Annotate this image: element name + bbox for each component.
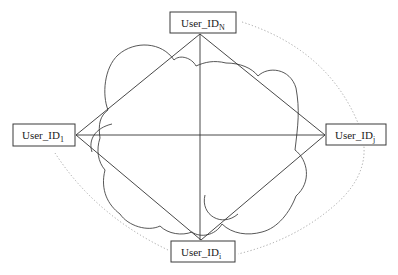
edge-top-left [76, 34, 200, 135]
cloud-inner-arc-left [91, 124, 112, 152]
node-user-id-n: User_IDN [170, 12, 236, 33]
cloud-outline [98, 45, 306, 235]
network-diagram: User_IDN User_ID1 User_IDj User_IDi [0, 0, 398, 275]
cloud-inner-arc-bottom [204, 195, 238, 220]
dotted-boundary-arc-left [55, 153, 168, 250]
node-subscript: 1 [60, 135, 64, 144]
node-subscript: j [372, 135, 375, 144]
node-label: User_ID [335, 129, 373, 141]
node-label: User_ID [181, 246, 219, 258]
node-user-id-i: User_IDi [171, 241, 235, 262]
node-label: User_ID [181, 17, 219, 29]
edge-left-bottom [76, 135, 201, 240]
edge-top-right [200, 34, 325, 135]
node-user-id-j: User_IDj [326, 124, 386, 145]
node-label: User_ID [22, 129, 60, 141]
edge-right-bottom [201, 135, 325, 240]
node-user-id-1: User_ID1 [13, 124, 75, 146]
node-subscript: N [219, 23, 225, 32]
